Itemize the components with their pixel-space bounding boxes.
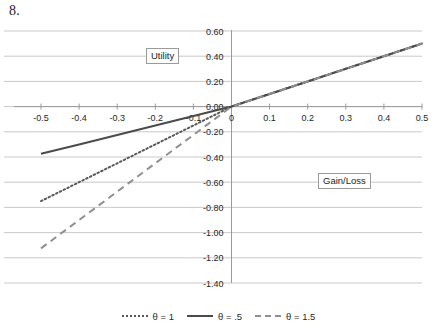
x-tick-label: 0.1 [263, 113, 276, 123]
legend-swatch-dashed [255, 312, 281, 320]
y-tick-label: -0.40 [203, 153, 224, 163]
legend-label: θ = .5 [218, 311, 242, 322]
y-axis-title: Utility [146, 48, 179, 64]
y-tick-label: -1.20 [203, 253, 224, 263]
x-tick-label: -0.2 [148, 113, 164, 123]
x-tick-label: 0.2 [301, 113, 314, 123]
chart-svg: 0.600.400.200.00-0.20-0.40-0.60-0.80-1.0… [0, 18, 437, 303]
y-tick-label: 0.40 [206, 52, 224, 62]
x-tick-label: -0.3 [109, 113, 125, 123]
legend-item-1: θ = 1 [122, 311, 174, 322]
y-axis-tick-labels: 0.600.400.200.00-0.20-0.40-0.60-0.80-1.0… [203, 27, 224, 289]
y-tick-label: -0.60 [203, 178, 224, 188]
legend-item-2: θ = .5 [187, 311, 242, 322]
legend-item-3: θ = 1.5 [255, 311, 315, 322]
x-tick-label: 0.3 [340, 113, 353, 123]
figure-container: 8. 0.600.400.200.00-0.20-0.40-0.60-0.80-… [0, 0, 437, 330]
x-axis-tick-labels: -0.5-0.4-0.3-0.2-0.100.10.20.30.40.5 [33, 113, 428, 123]
legend-swatch-dotted [122, 312, 148, 320]
y-tick-label: -1.00 [203, 228, 224, 238]
y-tick-label: -0.80 [203, 203, 224, 213]
x-axis-title: Gain/Loss [318, 173, 371, 189]
legend-label: θ = 1.5 [286, 311, 315, 322]
x-tick-label: -0.5 [33, 113, 49, 123]
y-tick-label: 0.60 [206, 27, 224, 37]
legend-label: θ = 1 [153, 311, 174, 322]
x-tick-label: 0 [229, 113, 234, 123]
y-tick-label: -1.40 [203, 279, 224, 289]
x-tick-label: 0.4 [378, 113, 391, 123]
figure-number: 8. [9, 3, 20, 19]
y-tick-label: -0.20 [203, 127, 224, 137]
x-tick-label: 0.5 [416, 113, 429, 123]
legend-swatch-solid [187, 312, 213, 320]
x-tick-label: -0.4 [71, 113, 87, 123]
chart-legend: θ = 1θ = .5θ = 1.5 [0, 306, 437, 326]
plot-area: 0.600.400.200.00-0.20-0.40-0.60-0.80-1.0… [0, 18, 437, 303]
y-tick-label: 0.20 [206, 77, 224, 87]
